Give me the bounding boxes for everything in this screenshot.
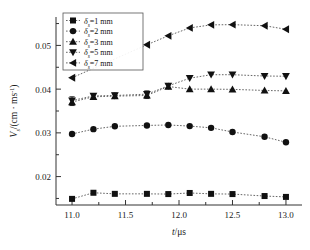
data-point-marker [164, 32, 171, 40]
data-point-marker [90, 126, 96, 132]
data-point-marker [283, 139, 289, 145]
data-point-marker [283, 194, 289, 200]
y-tick-label: 0.02 [35, 172, 51, 182]
data-point-marker [112, 191, 118, 197]
data-point-marker [282, 87, 290, 94]
y-tick-label: 0.05 [35, 41, 51, 51]
data-point-marker [112, 123, 118, 129]
series-line [72, 125, 286, 142]
data-point-marker [229, 191, 235, 197]
data-point-marker [165, 122, 171, 128]
series-3 [68, 83, 290, 106]
x-tick-label: 13.0 [278, 210, 294, 220]
x-tick-label: 11.0 [64, 210, 80, 220]
data-point-marker [261, 134, 267, 140]
data-point-marker [70, 18, 76, 24]
x-tick-label: 12.0 [171, 210, 187, 220]
data-point-marker [261, 22, 268, 30]
data-point-marker [229, 129, 235, 135]
x-axis-title: t/μs [172, 227, 186, 237]
data-point-marker [186, 123, 192, 129]
series-line [72, 193, 286, 199]
data-point-marker [70, 28, 76, 34]
data-point-marker [186, 75, 194, 82]
chart-figure: 0.020.030.040.0511.011.512.012.513.0δs=1… [0, 0, 310, 250]
data-point-marker [165, 191, 171, 197]
data-point-marker [144, 122, 150, 128]
data-point-marker [207, 21, 214, 29]
data-point-marker [90, 190, 96, 196]
data-point-marker [69, 131, 75, 137]
data-point-marker [144, 191, 150, 197]
data-point-marker [186, 24, 193, 32]
y-axis-title: Vs/(cm · ms-1) [9, 85, 21, 138]
data-point-marker [69, 196, 75, 202]
y-tick-label: 0.04 [35, 85, 51, 95]
data-point-marker [68, 74, 75, 82]
velocity-vs-time-chart: 0.020.030.040.0511.011.512.012.513.0δs=1… [0, 0, 310, 250]
data-point-marker [208, 125, 214, 131]
series-line [72, 87, 286, 103]
data-point-marker [229, 21, 236, 29]
data-point-marker [143, 41, 150, 49]
data-point-marker [262, 193, 268, 199]
y-tick-label: 0.03 [35, 128, 51, 138]
x-tick-label: 11.5 [118, 210, 134, 220]
x-tick-label: 12.5 [225, 210, 241, 220]
data-point-marker [282, 25, 289, 33]
data-point-marker [187, 190, 193, 196]
series-2 [69, 122, 289, 146]
data-point-marker [208, 191, 214, 197]
